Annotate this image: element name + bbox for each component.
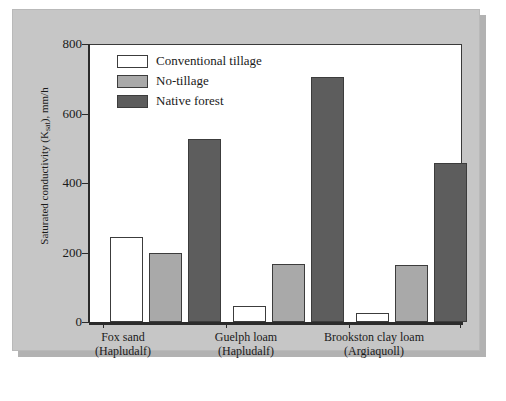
x-tick-mark-left-3 (349, 323, 350, 328)
y-axis-title: Saturated conductivity (Ksat), mm/h (38, 71, 50, 261)
bar-fox-sand-conventional-tillage (110, 237, 143, 322)
x-group-label-brookston-clay-loam: Brookston clay loam (Argiaquoll) (289, 330, 459, 358)
x-group-label-brookston-clay-loam-line1: Brookston clay loam (324, 330, 424, 344)
legend-swatch-no-tillage (117, 75, 148, 88)
y-tick-800: 800 (13, 44, 82, 45)
bar-guelph-loam-conventional-tillage (233, 306, 266, 322)
x-group-label-guelph-loam-line1: Guelph loam (215, 330, 277, 344)
bar-brookston-clay-loam-native-forest (434, 163, 467, 322)
legend-item-native-forest: Native forest (117, 92, 347, 110)
y-tick-label-800: 800 (38, 37, 82, 50)
y-axis-title-main: Saturated conductivity (K (38, 131, 50, 245)
x-tick-mark-left-2 (226, 323, 227, 328)
y-tick-label-0: 0 (38, 315, 82, 328)
bar-brookston-clay-loam-conventional-tillage (356, 313, 389, 322)
legend-item-conventional-tillage: Conventional tillage (117, 52, 347, 70)
y-tick-0: 0 (13, 322, 82, 323)
chart-panel: 800 600 400 200 0 Saturated conductivity… (12, 9, 480, 351)
legend: Conventional tillage No-tillage Native f… (117, 52, 347, 112)
bar-brookston-clay-loam-no-tillage (395, 265, 428, 322)
legend-swatch-conventional-tillage (117, 55, 148, 68)
x-group-label-fox-sand-line1: Fox sand (101, 330, 145, 344)
x-axis-line (89, 322, 463, 325)
figure: 800 600 400 200 0 Saturated conductivity… (0, 0, 506, 401)
legend-item-no-tillage: No-tillage (117, 72, 347, 90)
bar-fox-sand-no-tillage (149, 253, 182, 323)
y-axis-title-tail: ), mm/h (38, 87, 50, 122)
x-tick-mark-left-1 (103, 323, 104, 328)
legend-label-native-forest: Native forest (156, 93, 224, 109)
legend-swatch-native-forest (117, 95, 148, 108)
y-axis-line (88, 44, 90, 323)
y-axis-title-subscript: sat (43, 122, 52, 131)
legend-label-conventional-tillage: Conventional tillage (156, 53, 262, 69)
bar-guelph-loam-no-tillage (272, 264, 305, 322)
x-tick-mark-right (460, 323, 461, 328)
bar-fox-sand-native-forest (188, 139, 221, 322)
bar-guelph-loam-native-forest (311, 77, 344, 322)
legend-label-no-tillage: No-tillage (156, 73, 209, 89)
x-group-label-brookston-clay-loam-line2: (Argiaquoll) (289, 344, 459, 358)
